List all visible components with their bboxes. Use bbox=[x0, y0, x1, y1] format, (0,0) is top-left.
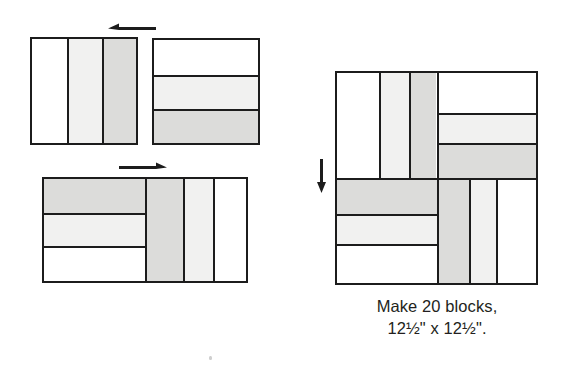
diagram-canvas: Make 20 blocks, 12½" x 12½". bbox=[0, 0, 572, 375]
strip-medium bbox=[102, 39, 136, 143]
scan-speck bbox=[209, 356, 212, 360]
strip-medium bbox=[147, 179, 183, 281]
strip-medium bbox=[439, 143, 537, 178]
strip-medium bbox=[154, 109, 258, 143]
top-left-unit bbox=[30, 37, 138, 145]
strip-white bbox=[337, 73, 379, 178]
block-quadrant-top-left bbox=[337, 73, 437, 178]
finished-block bbox=[335, 71, 538, 285]
strip-light bbox=[337, 214, 437, 244]
strip-white bbox=[337, 244, 437, 283]
block-caption: Make 20 blocks, 12½" x 12½". bbox=[346, 296, 528, 340]
block-quadrant-top-right bbox=[437, 73, 537, 178]
caption-line-2: 12½" x 12½". bbox=[346, 318, 528, 340]
strip-medium bbox=[44, 179, 145, 213]
strip-white bbox=[44, 246, 145, 281]
strip-light bbox=[44, 213, 145, 247]
block-quadrant-bottom-left bbox=[337, 178, 437, 283]
strip-medium bbox=[439, 180, 469, 283]
arrow-down-icon bbox=[316, 159, 328, 193]
strip-light bbox=[183, 179, 214, 281]
bottom-left-unit bbox=[42, 177, 248, 283]
arrow-right-icon bbox=[119, 161, 167, 173]
strip-light bbox=[439, 113, 537, 143]
strip-white bbox=[213, 179, 246, 281]
bottom-unit-right-half bbox=[145, 179, 246, 281]
top-right-unit bbox=[152, 38, 260, 145]
block-quadrant-bottom-right bbox=[437, 178, 537, 283]
strip-white bbox=[32, 39, 67, 143]
strip-white bbox=[154, 40, 258, 75]
strip-white bbox=[439, 73, 537, 113]
strip-white bbox=[496, 180, 536, 283]
strip-light bbox=[67, 39, 101, 143]
arrow-left-icon bbox=[108, 22, 156, 34]
caption-line-1: Make 20 blocks, bbox=[346, 296, 528, 318]
strip-light bbox=[379, 73, 409, 178]
strip-medium bbox=[409, 73, 437, 178]
strip-light bbox=[469, 180, 496, 283]
strip-medium bbox=[337, 180, 437, 214]
strip-light bbox=[154, 75, 258, 109]
bottom-unit-left-half bbox=[44, 179, 145, 281]
